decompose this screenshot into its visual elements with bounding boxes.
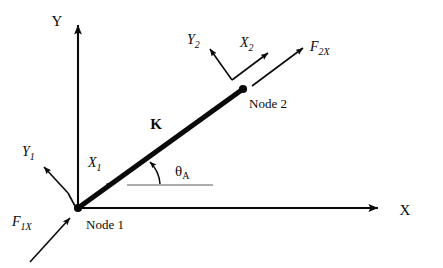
node-2-force-label: F2X [309,39,331,57]
node-2-local-y-label: Y2 [187,32,200,50]
node-1-local-y-stem [68,193,75,206]
node-2-marker [239,85,247,93]
node-1-local-x-subscript: 1 [97,162,102,173]
node-2-force-subscript: 2X [319,46,331,57]
global-x-axis-label: X [400,202,411,218]
node-1-local-y-subscript: 1 [30,151,35,162]
node-2-local-axes [210,49,268,80]
node-2-force-symbol: F [309,39,319,54]
angle-subscript: A [182,170,190,181]
node-2-force-arrow [252,48,303,86]
node-2-local-x-label: X2 [239,35,254,53]
angle-arc-arrow [150,162,160,184]
node-1-local-y-axis [44,167,68,193]
angle-symbol: θ [175,163,182,179]
angle-label: θA [175,163,190,181]
node-2-local-x-subscript: 2 [249,42,254,53]
global-y-axis-label: Y [52,13,63,29]
node-1-local-x-symbol: X [87,155,97,170]
figure-canvas: Y X K θA Node 1 Y1 X1 F1X Node 2 [0,0,443,268]
node-1-force-symbol: F [11,214,21,229]
node-2-label: Node 2 [249,96,287,111]
finite-element-diagram: Y X K θA Node 1 Y1 X1 F1X Node 2 [0,0,443,268]
node-1-local-y-label: Y1 [22,144,35,162]
node-2-local-y-axis [210,49,232,80]
node-1-label: Node 1 [86,217,124,232]
node-1-force-arrow [30,218,70,262]
node-1-local-x-label: X1 [87,155,102,173]
node-1-local-x-axis [76,182,113,209]
node-2-local-y-subscript: 2 [195,39,200,50]
node-2-local-x-symbol: X [239,35,249,50]
node-1-force-subscript: 1X [21,221,33,232]
node-2-local-x-axis [232,53,268,80]
element-stiffness-label: K [150,116,162,132]
node-1-force-label: F1X [11,214,33,232]
